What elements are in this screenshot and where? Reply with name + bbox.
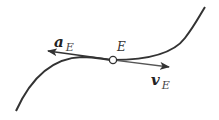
point-e-marker	[109, 56, 116, 63]
acceleration-arrow	[48, 51, 110, 60]
velocity-subscript: E	[162, 79, 170, 92]
curve-diagram: aE E vE	[0, 0, 219, 120]
acceleration-label: aE	[54, 34, 74, 50]
velocity-label: vE	[151, 72, 170, 88]
acceleration-symbol: a	[54, 33, 64, 51]
diagram-graphics	[0, 0, 219, 120]
velocity-symbol: v	[151, 71, 160, 89]
point-e-label: E	[117, 41, 126, 53]
velocity-arrow	[116, 60, 169, 67]
acceleration-subscript: E	[66, 41, 74, 54]
